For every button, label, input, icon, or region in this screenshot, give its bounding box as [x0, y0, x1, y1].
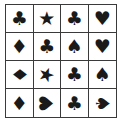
- grid-cell-4-2[interactable]: ♥: [34, 89, 62, 117]
- grid-cell-4-4[interactable]: ♠: [89, 89, 117, 117]
- heart-icon: ♥: [37, 94, 56, 111]
- club-icon: ♣: [66, 9, 83, 28]
- star-icon: ★: [35, 63, 58, 87]
- club-icon: ♣: [11, 9, 28, 28]
- club-icon: ♣: [66, 65, 83, 84]
- grid-cell-2-2[interactable]: ♣: [34, 33, 62, 61]
- grid-cell-2-4[interactable]: ♥: [89, 33, 117, 61]
- club-icon: ♣: [66, 94, 83, 113]
- grid-cell-1-3[interactable]: ♣: [61, 5, 89, 33]
- grid-cell-1-4[interactable]: ♥: [89, 5, 117, 33]
- heart-icon: ♥: [94, 37, 111, 56]
- spade-icon: ♠: [94, 65, 111, 84]
- diamond-icon: ♦: [11, 37, 28, 56]
- grid-cell-4-1[interactable]: ♦: [6, 89, 34, 117]
- grid-cell-1-1[interactable]: ♣: [6, 5, 34, 33]
- grid-cell-2-1[interactable]: ♦: [6, 33, 34, 61]
- grid-cell-3-4[interactable]: ♠: [89, 61, 117, 89]
- grid-cell-3-2[interactable]: ★: [34, 61, 62, 89]
- grid-cell-1-2[interactable]: ★: [34, 5, 62, 33]
- club-icon: ♣: [38, 37, 55, 56]
- star-icon: ★: [38, 9, 55, 28]
- grid-cell-4-3[interactable]: ♣: [61, 89, 89, 117]
- grid-cell-3-3[interactable]: ♣: [61, 61, 89, 89]
- spade-icon: ♠: [66, 37, 83, 56]
- symbol-grid: ♣ ★ ♣ ♥ ♦ ♣ ♠ ♥ ♦ ★ ♣ ♠ ♦ ♥ ♣ ♠: [5, 4, 117, 118]
- grid-cell-3-1[interactable]: ♦: [6, 61, 34, 89]
- grid-cell-2-3[interactable]: ♠: [61, 33, 89, 61]
- diamond-icon: ♦: [11, 94, 28, 113]
- heart-icon: ♥: [94, 9, 111, 28]
- diamond-icon: ♦: [10, 66, 29, 83]
- spade-icon: ♠: [93, 94, 112, 111]
